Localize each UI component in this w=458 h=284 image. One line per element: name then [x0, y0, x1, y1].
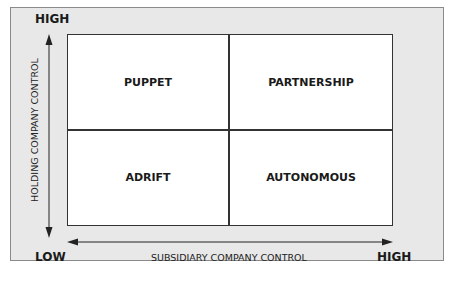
arrow-right-icon: [382, 239, 393, 246]
arrow-down-icon: [46, 227, 53, 238]
y-axis-title: HOLDING COMPANY CONTROL: [29, 58, 40, 202]
arrow-left-icon: [67, 239, 78, 246]
x-axis-high-label: HIGH: [377, 250, 411, 264]
arrow-up-icon: [46, 34, 53, 45]
axis-arrows: [0, 0, 458, 284]
y-axis-high-label: HIGH: [35, 12, 69, 26]
origin-low-label: LOW: [35, 250, 66, 264]
x-axis-title: SUBSIDIARY COMPANY CONTROL: [151, 252, 307, 263]
